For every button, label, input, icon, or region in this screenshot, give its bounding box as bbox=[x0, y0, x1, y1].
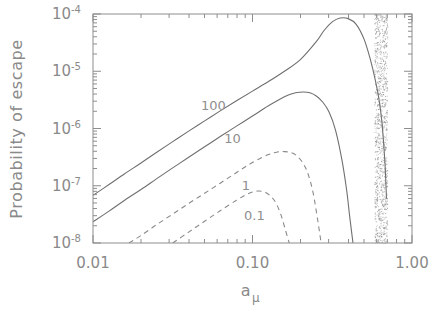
x-axis-title: a bbox=[241, 281, 251, 300]
curve-label-1: 1 bbox=[242, 178, 250, 193]
curve-label-10: 10 bbox=[224, 131, 241, 146]
chart-background bbox=[0, 0, 438, 314]
curve-label-0p1: 0.1 bbox=[244, 208, 265, 223]
chart-figure: 10-810-710-610-510-4 0.010.101.00 100101… bbox=[0, 0, 438, 314]
x-tick-label: 0.01 bbox=[76, 254, 109, 272]
curve-label-100: 100 bbox=[201, 98, 226, 113]
x-tick-label: 1.00 bbox=[395, 254, 428, 272]
x-tick-label: 0.10 bbox=[236, 254, 269, 272]
x-axis-title-subscript: μ bbox=[252, 291, 260, 305]
probability-of-escape-plot: 10-810-710-610-510-4 0.010.101.00 100101… bbox=[0, 0, 438, 314]
y-axis-title: Probability of escape bbox=[7, 39, 26, 219]
